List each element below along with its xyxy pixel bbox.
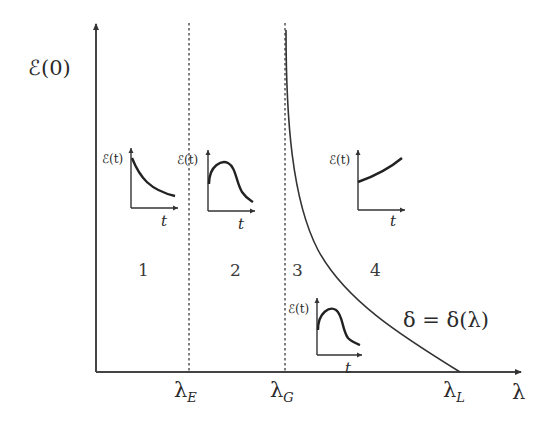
inset-4-xlabel: t — [390, 214, 396, 229]
inset-4-ylabel: ℰ(t) — [329, 154, 350, 166]
tick-lambda-l: λL — [443, 380, 465, 401]
x-axis-label: λ — [512, 382, 525, 403]
tick-lambda-g: λG — [270, 380, 294, 401]
inset-1-xlabel: t — [161, 214, 167, 229]
y-axis-label: ℰ(0) — [28, 58, 71, 79]
phase-diagram — [0, 0, 551, 423]
inset-2-xlabel: t — [238, 217, 244, 232]
inset-region-4 — [358, 150, 405, 210]
curve-label: δ = δ(λ) — [403, 310, 489, 331]
inset-region-2 — [208, 150, 255, 211]
region-2-label: 2 — [230, 262, 241, 279]
inset-region-3 — [317, 298, 362, 355]
region-4-label: 4 — [370, 262, 381, 279]
inset-3-ylabel: ℰ(t) — [288, 303, 309, 315]
region-3-label: 3 — [292, 262, 303, 279]
inset-3-xlabel: t — [345, 361, 351, 376]
region-1-label: 1 — [138, 262, 149, 279]
inset-2-ylabel: ℰ(t) — [177, 154, 198, 166]
inset-1-ylabel: ℰ(t) — [102, 153, 123, 165]
tick-lambda-e: λE — [174, 380, 197, 401]
inset-region-1 — [131, 148, 178, 208]
